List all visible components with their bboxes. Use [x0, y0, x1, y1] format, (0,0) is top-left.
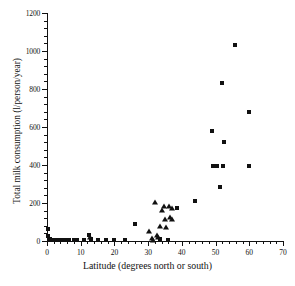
square-marker-icon — [221, 164, 225, 168]
x-axis-tick-label: 30 — [144, 248, 152, 257]
x-axis-major-tick — [249, 241, 250, 246]
x-axis-minor-tick — [236, 241, 237, 244]
x-axis-tick-label: 20 — [111, 248, 119, 257]
x-axis-major-tick — [216, 241, 217, 246]
x-axis-minor-tick — [202, 241, 203, 244]
x-axis-minor-tick — [128, 241, 129, 244]
x-axis-minor-tick — [141, 241, 142, 244]
y-axis-tick-label: 200 — [29, 199, 40, 208]
square-marker-icon — [75, 238, 79, 242]
triangle-marker-icon — [169, 216, 175, 221]
square-marker-icon — [220, 81, 224, 85]
square-marker-icon — [46, 227, 50, 231]
square-marker-icon — [215, 164, 219, 168]
x-axis-tick-label: 70 — [279, 248, 287, 257]
square-marker-icon — [133, 222, 137, 226]
triangle-marker-icon — [163, 225, 169, 230]
x-axis-major-tick — [47, 241, 48, 246]
x-axis-tick-label: 60 — [246, 248, 254, 257]
x-axis-title-text: Latitude (degrees north or south) — [0, 260, 295, 271]
y-axis-tick-label: 1000 — [26, 47, 40, 56]
triangle-marker-icon — [152, 199, 158, 204]
x-axis-minor-tick — [270, 241, 271, 244]
x-axis-minor-tick — [195, 241, 196, 244]
x-axis-major-tick — [148, 241, 149, 246]
x-axis-minor-tick — [94, 241, 95, 244]
milk-consumption-scatter-chart: 020040060080010001200 010203040506070 To… — [0, 0, 295, 286]
square-marker-icon — [218, 185, 222, 189]
triangle-marker-icon — [146, 229, 152, 234]
x-axis-minor-tick — [209, 241, 210, 244]
x-axis-minor-tick — [263, 241, 264, 244]
x-axis-minor-tick — [243, 241, 244, 244]
triangle-marker-icon — [169, 206, 175, 211]
y-axis-tick-label: 600 — [29, 123, 40, 132]
square-marker-icon — [104, 238, 108, 242]
square-marker-icon — [175, 206, 179, 210]
square-marker-icon — [82, 238, 86, 242]
square-marker-icon — [233, 43, 237, 47]
x-axis-minor-tick — [189, 241, 190, 244]
x-axis-tick-label: 10 — [77, 248, 85, 257]
y-axis-title: Total milk consumption (l/person/year) — [12, 7, 26, 255]
x-axis-minor-tick — [256, 241, 257, 244]
y-axis-title-text: Total milk consumption (l/person/year) — [10, 7, 24, 255]
y-axis-tick-label: 400 — [29, 161, 40, 170]
x-axis-minor-tick — [276, 241, 277, 244]
y-axis-tick-label: 1200 — [26, 9, 40, 18]
x-axis-minor-tick — [135, 241, 136, 244]
x-axis-major-tick — [182, 241, 183, 246]
x-axis-minor-tick — [175, 241, 176, 244]
square-marker-icon — [67, 238, 71, 242]
x-axis-tick-label: 0 — [45, 248, 49, 257]
x-axis-minor-tick — [121, 241, 122, 244]
square-marker-icon — [96, 238, 100, 242]
square-marker-icon — [210, 129, 214, 133]
triangle-marker-icon — [87, 235, 93, 240]
triangle-marker-icon — [157, 224, 163, 229]
x-axis-tick-label: 40 — [178, 248, 186, 257]
square-marker-icon — [247, 110, 251, 114]
square-marker-icon — [222, 140, 226, 144]
x-axis-minor-tick — [101, 241, 102, 244]
square-marker-icon — [112, 238, 116, 242]
square-marker-icon — [247, 164, 251, 168]
x-axis-tick-label: 50 — [212, 248, 220, 257]
square-marker-icon — [193, 199, 197, 203]
x-axis-minor-tick — [222, 241, 223, 244]
square-marker-icon — [123, 238, 127, 242]
plot-area — [47, 13, 283, 241]
x-axis-minor-tick — [229, 241, 230, 244]
y-axis-tick-label: 0 — [36, 237, 40, 246]
square-marker-icon — [166, 238, 170, 242]
y-axis-tick-label: 800 — [29, 85, 40, 94]
x-axis-major-tick — [283, 241, 284, 246]
triangle-marker-icon — [155, 235, 161, 240]
